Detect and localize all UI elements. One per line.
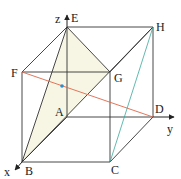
vertex-label-A: A: [55, 105, 64, 119]
vertex-label-C: C: [111, 163, 119, 177]
vertex-label-F: F: [11, 66, 18, 80]
axis-label-y: y: [167, 122, 173, 136]
axis-label-x: x: [4, 165, 10, 179]
vertex-label-E: E: [71, 11, 78, 25]
segment-CH: [110, 27, 153, 162]
axis-label-z: z: [55, 12, 60, 26]
diagram-canvas: z y x E H F G A D B C: [0, 0, 181, 179]
vertex-label-H: H: [156, 20, 165, 34]
shaded-triangle-ebg: [22, 27, 110, 162]
x-axis-arrow: [15, 162, 22, 170]
vertex-label-G: G: [114, 71, 123, 85]
vertex-label-B: B: [25, 164, 33, 178]
point-marker: [60, 84, 64, 88]
edge-CD: [110, 117, 153, 162]
vertex-label-D: D: [155, 102, 164, 116]
cube-diagram: z y x E H F G A D B C: [0, 0, 181, 179]
